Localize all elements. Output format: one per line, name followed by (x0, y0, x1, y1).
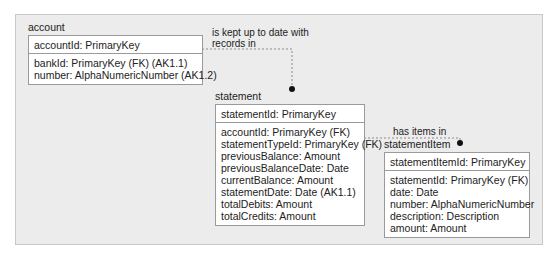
entity-name: statement (215, 90, 365, 102)
attribute: currentBalance: Amount (221, 174, 359, 186)
relationship-label-line: has items in (393, 126, 446, 137)
primary-key: statementId: PrimaryKey (216, 105, 364, 123)
attribute: statementTypeId: PrimaryKey (FK) (221, 138, 359, 150)
attribute: statementId: PrimaryKey (FK) (390, 174, 524, 186)
entity-statement[interactable]: statement statementId: PrimaryKey accoun… (215, 90, 365, 226)
attribute: amount: Amount (390, 222, 524, 234)
entity-name: account (28, 21, 203, 33)
relationship-label-has-items: has items in (393, 126, 446, 137)
entity-name: statementItem (384, 138, 530, 150)
relationship-label-line: records in (212, 38, 309, 49)
attribute: date: Date (390, 186, 524, 198)
relationship-label-line: is kept up to date with (212, 27, 309, 38)
attribute: accountId: PrimaryKey (FK) (221, 126, 359, 138)
attribute: number: AlphaNumericNumber (390, 198, 524, 210)
attribute: bankId: PrimaryKey (FK) (AK1.1) (34, 57, 197, 69)
entity-statementitem[interactable]: statementItem statementItemId: PrimaryKe… (384, 138, 530, 238)
relationship-label-kept-up-to-date: is kept up to date with records in (212, 27, 309, 49)
entity-box: statementId: PrimaryKey accountId: Prima… (215, 104, 365, 226)
entity-account[interactable]: account accountId: PrimaryKey bankId: Pr… (28, 21, 203, 85)
primary-key: accountId: PrimaryKey (29, 36, 202, 54)
entity-box: accountId: PrimaryKey bankId: PrimaryKey… (28, 35, 203, 85)
attribute-list: accountId: PrimaryKey (FK) statementType… (216, 123, 364, 225)
attribute: number: AlphaNumericNumber (AK1.2) (34, 69, 197, 81)
attribute: description: Description (390, 210, 524, 222)
attribute: statementDate: Date (AK1.1) (221, 186, 359, 198)
attribute: totalCredits: Amount (221, 210, 359, 222)
entity-box: statementItemId: PrimaryKey statementId:… (384, 152, 530, 238)
attribute: previousBalanceDate: Date (221, 162, 359, 174)
attribute-list: statementId: PrimaryKey (FK) date: Date … (385, 171, 529, 237)
attribute: previousBalance: Amount (221, 150, 359, 162)
attribute: totalDebits: Amount (221, 198, 359, 210)
primary-key: statementItemId: PrimaryKey (385, 153, 529, 171)
attribute-list: bankId: PrimaryKey (FK) (AK1.1) number: … (29, 54, 202, 84)
